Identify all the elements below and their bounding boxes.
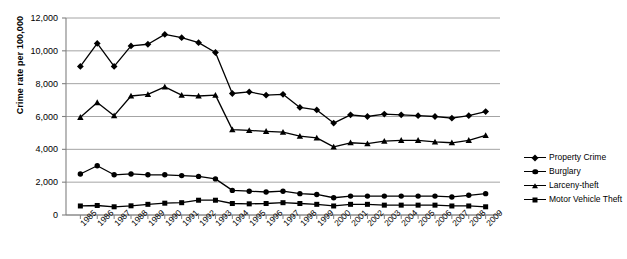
diamond-marker-icon xyxy=(432,113,439,120)
square-marker-icon xyxy=(483,204,488,209)
legend-label: Property Crime xyxy=(549,152,606,162)
square-marker-icon xyxy=(179,200,184,205)
square-marker-icon xyxy=(247,201,252,206)
diamond-marker-icon xyxy=(482,108,489,115)
legend-line-swatch xyxy=(524,199,546,200)
square-marker-icon xyxy=(230,201,235,206)
circle-marker-icon xyxy=(213,176,218,181)
circle-marker-icon xyxy=(162,172,167,177)
circle-marker-icon xyxy=(399,193,404,198)
square-marker-icon xyxy=(145,202,150,207)
diamond-marker-icon xyxy=(178,34,185,41)
square-marker-icon xyxy=(348,202,353,207)
triangle-marker-icon xyxy=(532,183,538,188)
square-marker-icon xyxy=(112,204,117,209)
y-axis-tick-labels: 02,0004,0006,0008,00010,00012,000 xyxy=(0,0,58,259)
legend-item-larceny-theft[interactable]: Larceny-theft xyxy=(524,178,622,192)
square-marker-icon xyxy=(196,198,201,203)
square-marker-icon xyxy=(162,201,167,206)
diamond-marker-icon xyxy=(448,115,455,122)
legend-item-property-crime[interactable]: Property Crime xyxy=(524,150,622,164)
square-marker-icon xyxy=(331,203,336,208)
circle-marker-icon xyxy=(382,193,387,198)
diamond-marker-icon xyxy=(415,112,422,119)
legend-item-burglary[interactable]: Burglary xyxy=(524,164,622,178)
circle-marker-icon xyxy=(483,191,488,196)
square-marker-icon xyxy=(365,202,370,207)
circle-marker-icon xyxy=(78,171,83,176)
square-marker-icon xyxy=(382,203,387,208)
crime-rate-line-chart: Crime rate per 100,000 02,0004,0006,0008… xyxy=(0,0,627,259)
square-marker-icon xyxy=(466,203,471,208)
circle-marker-icon xyxy=(449,194,454,199)
square-marker-icon xyxy=(297,201,302,206)
square-marker-icon xyxy=(449,203,454,208)
square-marker-icon xyxy=(432,203,437,208)
y-tick-label: 0 xyxy=(53,210,58,220)
legend-line-swatch xyxy=(524,157,546,158)
y-tick-label: 6,000 xyxy=(35,112,58,122)
diamond-marker-icon xyxy=(398,111,405,118)
circle-marker-icon xyxy=(230,188,235,193)
square-marker-icon xyxy=(533,197,538,202)
triangle-marker-icon xyxy=(162,84,168,90)
y-tick-label: 8,000 xyxy=(35,79,58,89)
triangle-marker-icon xyxy=(94,99,100,105)
circle-marker-icon xyxy=(297,191,302,196)
circle-marker-icon xyxy=(415,193,420,198)
circle-marker-icon xyxy=(331,195,336,200)
diamond-marker-icon xyxy=(195,39,202,46)
diamond-marker-icon xyxy=(364,113,371,120)
diamond-marker-icon xyxy=(263,92,270,99)
y-tick-label: 2,000 xyxy=(35,177,58,187)
square-marker-icon xyxy=(95,203,100,208)
square-marker-icon xyxy=(314,202,319,207)
triangle-marker-icon xyxy=(482,132,488,138)
circle-marker-icon xyxy=(314,192,319,197)
legend-label: Motor Vehicle Theft xyxy=(549,194,622,204)
legend-line-swatch xyxy=(524,185,546,186)
diamond-marker-icon xyxy=(212,49,219,56)
circle-marker-icon xyxy=(128,171,133,176)
diamond-marker-icon xyxy=(347,111,354,118)
legend-line-swatch xyxy=(524,171,546,172)
diamond-marker-icon xyxy=(531,154,538,161)
square-marker-icon xyxy=(416,203,421,208)
circle-marker-icon xyxy=(179,173,184,178)
circle-marker-icon xyxy=(95,163,100,168)
legend-item-motor-vehicle-theft[interactable]: Motor Vehicle Theft xyxy=(524,192,622,206)
chart-legend: Property CrimeBurglaryLarceny-theftMotor… xyxy=(524,150,622,206)
circle-marker-icon xyxy=(280,188,285,193)
y-tick-label: 4,000 xyxy=(35,144,58,154)
circle-marker-icon xyxy=(432,193,437,198)
circle-marker-icon xyxy=(348,193,353,198)
square-marker-icon xyxy=(129,203,134,208)
circle-marker-icon xyxy=(263,189,268,194)
circle-marker-icon xyxy=(466,193,471,198)
circle-marker-icon xyxy=(196,174,201,179)
circle-marker-icon xyxy=(111,172,116,177)
y-tick-label: 12,000 xyxy=(30,13,58,23)
y-tick-label: 10,000 xyxy=(30,46,58,56)
square-marker-icon xyxy=(399,203,404,208)
series-line xyxy=(80,34,485,123)
circle-marker-icon xyxy=(532,169,538,175)
circle-marker-icon xyxy=(247,188,252,193)
circle-marker-icon xyxy=(145,172,150,177)
y-axis-ticks xyxy=(62,18,66,215)
square-marker-icon xyxy=(264,201,269,206)
legend-label: Burglary xyxy=(549,166,581,176)
square-marker-icon xyxy=(281,200,286,205)
diamond-marker-icon xyxy=(465,112,472,119)
diamond-marker-icon xyxy=(161,31,168,38)
diamond-marker-icon xyxy=(229,90,236,97)
square-marker-icon xyxy=(78,203,83,208)
circle-marker-icon xyxy=(365,193,370,198)
legend-label: Larceny-theft xyxy=(549,180,599,190)
series-motor-vehicle-theft xyxy=(78,198,488,210)
series-property-crime xyxy=(77,31,489,126)
diamond-marker-icon xyxy=(145,41,152,48)
diamond-marker-icon xyxy=(246,88,253,95)
square-marker-icon xyxy=(213,198,218,203)
